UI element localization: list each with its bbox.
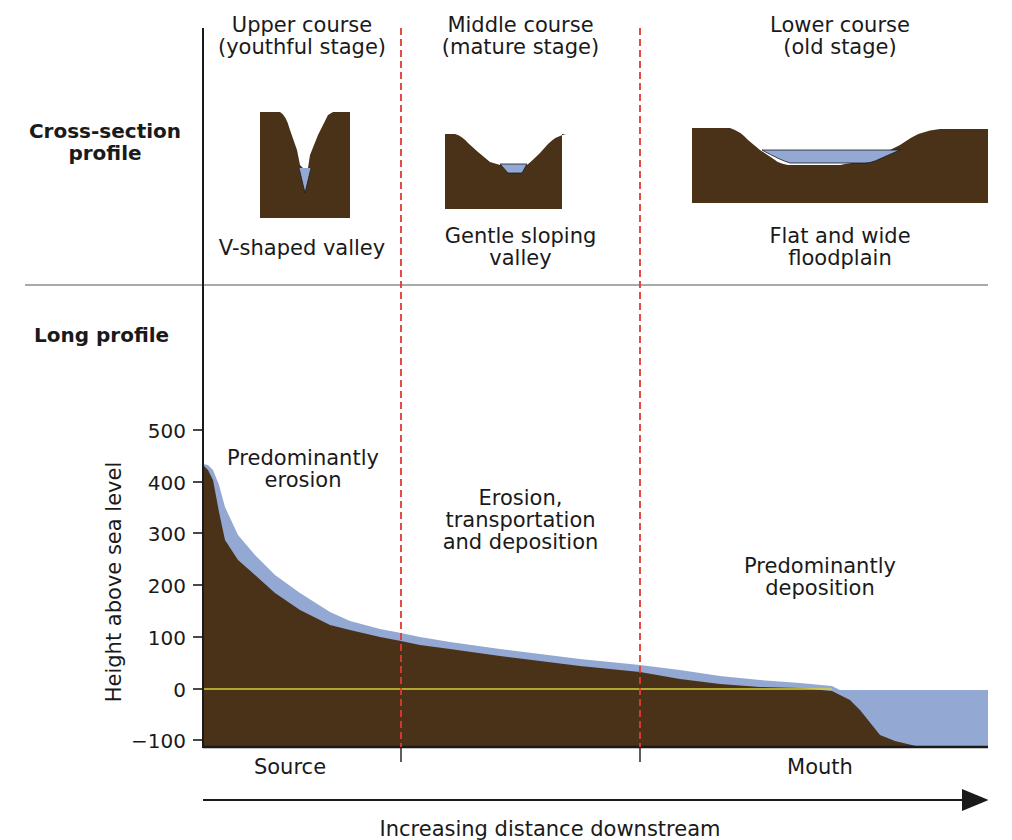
x-axis-label: Increasing distance downstream (300, 818, 800, 840)
ytick-neg100: −100 (116, 729, 186, 753)
x-label-source: Source (240, 756, 340, 778)
ytick-100: 100 (116, 626, 186, 650)
v-shaped-valley-profile (260, 112, 350, 218)
gentle-valley-profile (445, 134, 566, 209)
ytick-400: 400 (116, 471, 186, 495)
upper-course-title: Upper course (youthful stage) (203, 14, 401, 58)
ytick-0: 0 (116, 678, 186, 702)
long-profile-label: Long profile (34, 324, 169, 346)
process-middle: Erosion, transportation and deposition (401, 487, 640, 553)
lower-valley-description: Flat and wide floodplain (700, 225, 980, 269)
ytick-300: 300 (116, 522, 186, 546)
y-axis-ticks (193, 430, 203, 740)
process-lower: Predominantly deposition (680, 555, 960, 599)
ytick-200: 200 (116, 574, 186, 598)
x-label-mouth: Mouth (770, 756, 870, 778)
cross-section-label: Cross-section profile (20, 120, 190, 164)
y-axis-label: Height above sea level (102, 457, 126, 707)
process-upper: Predominantly erosion (205, 447, 401, 491)
upper-valley-description: V-shaped valley (203, 237, 401, 259)
ytick-500: 500 (116, 419, 186, 443)
floodplain-profile (692, 128, 988, 203)
lower-course-title: Lower course (old stage) (700, 14, 980, 58)
middle-valley-description: Gentle sloping valley (401, 225, 640, 269)
middle-course-title: Middle course (mature stage) (401, 14, 640, 58)
